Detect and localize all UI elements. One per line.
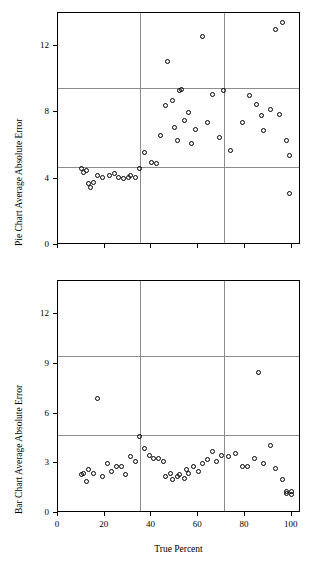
scatter-point: [84, 479, 89, 484]
scatter-point: [161, 459, 166, 464]
scatter-point: [133, 175, 138, 180]
scatter-point: [193, 127, 198, 132]
x-axis-tick: [150, 244, 151, 248]
scatter-point: [245, 464, 250, 469]
scatter-point: [163, 103, 168, 108]
x-axis-tick: [291, 244, 292, 248]
grid-line-vertical: [224, 13, 225, 243]
scatter-point: [261, 461, 266, 466]
scatter-point: [100, 474, 105, 479]
scatter-point: [133, 459, 138, 464]
y-axis-tick-label: 3: [19, 458, 49, 467]
y-axis-tick: [53, 363, 57, 364]
scatter-point: [100, 175, 105, 180]
scatter-point: [158, 133, 163, 138]
scatter-point: [191, 464, 196, 469]
scatter-point: [196, 469, 201, 474]
pie-plot-area: [57, 12, 300, 244]
scatter-point: [259, 113, 264, 118]
scatter-point: [247, 93, 252, 98]
scatter-point: [268, 107, 273, 112]
scatter-point: [287, 191, 292, 196]
scatter-point: [200, 34, 205, 39]
scatter-point: [240, 120, 245, 125]
scatter-point: [91, 471, 96, 476]
scatter-point: [205, 457, 210, 462]
scatter-point: [175, 138, 180, 143]
scatter-point: [268, 443, 273, 448]
x-axis-tick: [104, 244, 105, 248]
grid-line-horizontal: [58, 435, 299, 436]
scatter-point: [109, 469, 114, 474]
scatter-point: [200, 461, 205, 466]
y-axis-tick-label: 12: [19, 309, 49, 318]
scatter-point: [189, 141, 194, 146]
x-axis-tick: [150, 512, 151, 516]
scatter-point: [137, 434, 142, 439]
x-axis-tick-label: 0: [55, 520, 60, 529]
scatter-point: [210, 92, 215, 97]
scatter-point: [284, 138, 289, 143]
x-axis-tick: [57, 244, 58, 248]
x-axis-title: True Percent: [57, 544, 300, 554]
scatter-point: [119, 464, 124, 469]
scatter-point: [123, 472, 128, 477]
scatter-point: [154, 161, 159, 166]
grid-line-vertical: [140, 13, 141, 243]
x-axis-tick-label: 60: [193, 520, 202, 529]
scatter-point: [226, 454, 231, 459]
scatter-point: [217, 135, 222, 140]
scatter-point: [165, 59, 170, 64]
scatter-point: [168, 471, 173, 476]
pie-chart-panel: Pie Chart Average Absolute Error 04812: [0, 0, 312, 268]
scatter-point: [214, 459, 219, 464]
scatter-point: [105, 461, 110, 466]
scatter-point: [273, 466, 278, 471]
scatter-point: [95, 396, 100, 401]
scatter-point: [256, 370, 261, 375]
scatter-point: [170, 477, 175, 482]
bar-chart-panel: Bar Chart Average Absolute Error 036912 …: [0, 268, 312, 573]
x-axis-tick: [104, 512, 105, 516]
scatter-point: [254, 102, 259, 107]
scatter-point: [233, 451, 238, 456]
x-axis-tick-label: 40: [146, 520, 155, 529]
y-axis-tick-label: 6: [19, 408, 49, 417]
scatter-point: [252, 456, 257, 461]
y-axis-tick: [53, 45, 57, 46]
bar-plot-area: [57, 280, 300, 512]
scatter-point: [289, 492, 294, 497]
y-axis-tick-label: 0: [19, 240, 49, 249]
scatter-point: [182, 476, 187, 481]
y-axis-tick: [53, 111, 57, 112]
scatter-point: [277, 112, 282, 117]
grid-line-horizontal: [58, 167, 299, 168]
y-axis-tick-label: 4: [19, 173, 49, 182]
x-axis-tick: [57, 512, 58, 516]
scatter-point: [137, 166, 142, 171]
scatter-point: [221, 88, 226, 93]
scatter-point: [88, 185, 93, 190]
scatter-point: [163, 474, 168, 479]
scatter-point: [210, 449, 215, 454]
x-axis-tick: [244, 244, 245, 248]
scatter-point: [205, 120, 210, 125]
scatter-point: [219, 453, 224, 458]
scatter-point: [182, 118, 187, 123]
y-axis-tick: [53, 413, 57, 414]
scatter-point: [170, 98, 175, 103]
y-axis-tick: [53, 178, 57, 179]
x-axis-tick: [244, 512, 245, 516]
scatter-point: [273, 27, 278, 32]
scatter-point: [280, 477, 285, 482]
x-axis-tick-label: 20: [99, 520, 108, 529]
scatter-point: [179, 87, 184, 92]
scatter-point: [280, 20, 285, 25]
scatter-point: [84, 168, 89, 173]
grid-line-vertical: [140, 281, 141, 511]
figure-root: Pie Chart Average Absolute Error 04812 B…: [0, 0, 312, 573]
scatter-point: [186, 110, 191, 115]
y-axis-tick-label: 12: [19, 41, 49, 50]
grid-line-vertical: [224, 281, 225, 511]
scatter-point: [228, 148, 233, 153]
